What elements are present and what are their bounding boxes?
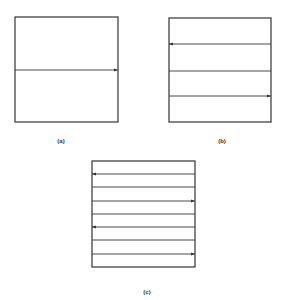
panel-box bbox=[169, 18, 271, 122]
panel-c bbox=[92, 161, 195, 267]
arrow-right-icon bbox=[267, 95, 271, 98]
panel-label-c: (c) bbox=[143, 289, 150, 295]
panel-label-a: (a) bbox=[57, 138, 64, 144]
panel-label-b: (b) bbox=[218, 138, 226, 144]
arrow-right-icon bbox=[191, 200, 195, 203]
panel-b bbox=[169, 18, 271, 122]
panel-box bbox=[15, 17, 118, 122]
panel-a bbox=[15, 17, 118, 122]
arrow-right-icon bbox=[191, 253, 195, 256]
diagram-canvas bbox=[0, 0, 281, 300]
arrow-left-icon bbox=[169, 43, 173, 46]
